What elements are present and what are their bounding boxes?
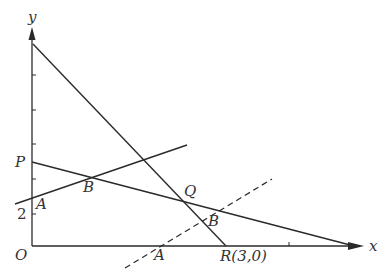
point-A-label: A — [34, 195, 47, 213]
origin-label: O — [15, 246, 27, 264]
point-Q-label: Q — [184, 182, 196, 200]
point-B-lower-label: B — [207, 212, 219, 230]
point-P-label: P — [14, 153, 26, 171]
point-A-xaxis-label: A — [152, 246, 165, 264]
coordinate-diagram: y x O 2 P A B Q B A R(3,0) — [0, 0, 388, 278]
point-R-label: R(3,0) — [219, 247, 267, 265]
x-axis-arrow-icon — [348, 242, 364, 250]
y-axis — [29, 27, 37, 246]
line-PQ — [32, 162, 354, 246]
x-axis — [32, 242, 364, 250]
steep-line — [33, 44, 226, 246]
x-axis-label: x — [369, 237, 378, 255]
y-tick-label: 2 — [17, 205, 27, 223]
y-axis-arrow-icon — [29, 27, 36, 40]
y-axis-label: y — [27, 8, 37, 26]
point-B-upper-label: B — [82, 178, 94, 196]
